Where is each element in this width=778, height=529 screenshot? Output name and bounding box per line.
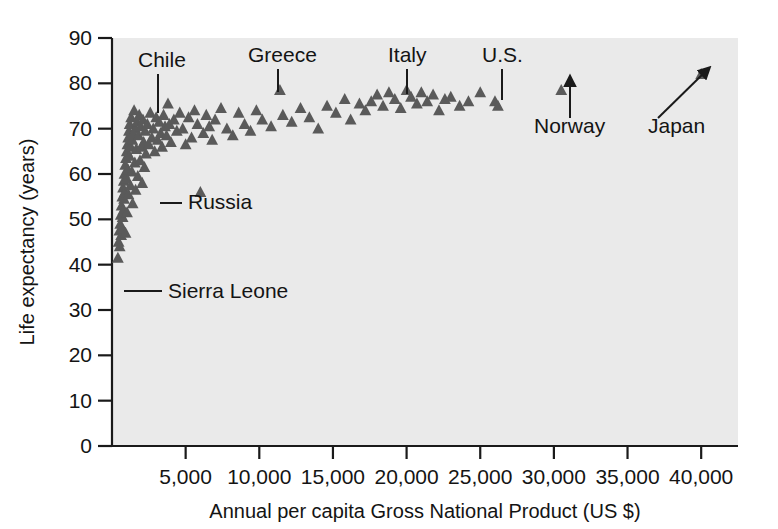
y-axis-tick-label: 10 [69,389,92,412]
chart-page: 01020304050607080905,00010,00015,00020,0… [0,0,778,529]
y-axis-tick-label: 80 [69,71,92,94]
annotation-label: Sierra Leone [168,279,288,302]
scatter-chart: 01020304050607080905,00010,00015,00020,0… [0,0,778,529]
plot-area-background [112,38,738,446]
annotation-label: Greece [248,43,317,66]
y-axis-tick-label: 50 [69,207,92,230]
x-axis-tick-label: 15,000 [301,465,365,488]
x-axis-title: Annual per capita Gross National Product… [209,500,640,522]
x-axis-tick-label: 30,000 [522,465,586,488]
annotation-label: U.S. [482,43,523,66]
annotation-label: Italy [388,43,427,66]
y-axis-tick-label: 70 [69,117,92,140]
x-axis-tick-label: 20,000 [374,465,438,488]
annotation-label: Norway [534,114,606,137]
y-axis-tick-label: 90 [69,26,92,49]
y-axis-tick-label: 60 [69,162,92,185]
x-axis-tick-label: 25,000 [448,465,512,488]
annotation-label: Japan [648,114,705,137]
x-axis-tick-label: 35,000 [595,465,659,488]
y-axis-tick-label: 0 [80,434,92,457]
y-axis-tick-label: 20 [69,343,92,366]
annotation-label: Chile [138,48,186,71]
annotation-label: Russia [188,190,253,213]
x-axis-tick-label: 10,000 [227,465,291,488]
x-axis-tick-label: 5,000 [159,465,212,488]
y-axis-title: Life expectancy (years) [16,139,38,346]
y-axis-tick-label: 30 [69,298,92,321]
y-axis-tick-label: 40 [69,253,92,276]
x-axis-tick-label: 40,000 [669,465,733,488]
